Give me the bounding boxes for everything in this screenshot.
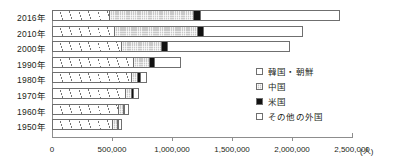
bar-segment-4 bbox=[125, 104, 129, 115]
legend-item: 韓国・朝鮮 bbox=[256, 64, 323, 78]
x-axis-tick bbox=[352, 133, 353, 138]
other-swatch bbox=[256, 113, 263, 120]
x-axis-tick-label: 0 bbox=[50, 145, 54, 154]
y-axis-tick-label: 1970年 bbox=[2, 89, 46, 101]
legend-item-label: 韓国・朝鮮 bbox=[268, 65, 314, 77]
x-axis-tick-label: 500,000 bbox=[98, 145, 127, 154]
x-axis-unit-label: (人) bbox=[360, 145, 373, 156]
x-axis-tick-label: 2,000,000 bbox=[274, 145, 310, 154]
bar-segment-2 bbox=[134, 57, 151, 68]
x-axis-tick-label: 1,500,000 bbox=[214, 145, 250, 154]
horizontal-stacked-bar-chart: 2016年2010年2000年1990年1980年1970年1960年1950年… bbox=[0, 0, 404, 167]
bar-segment-1 bbox=[52, 72, 132, 83]
bar-segment-2 bbox=[110, 10, 194, 21]
bar-segment-2 bbox=[122, 41, 163, 52]
x-axis-tick bbox=[232, 137, 233, 141]
bar-segment-4 bbox=[155, 57, 181, 68]
bar-segment-4 bbox=[141, 72, 148, 83]
bar-segment-1 bbox=[52, 57, 134, 68]
bar-segment-4 bbox=[168, 41, 291, 52]
bar-segment-4 bbox=[134, 88, 139, 99]
bar-segment-1 bbox=[52, 104, 119, 115]
legend-item-label: 中国 bbox=[268, 80, 286, 92]
bar-segment-4 bbox=[201, 10, 340, 21]
y-axis-tick-label: 1990年 bbox=[2, 58, 46, 70]
x-axis-tick bbox=[172, 137, 173, 141]
bar-segment-1 bbox=[52, 10, 110, 21]
china-swatch bbox=[256, 83, 263, 90]
legend-item: 米国 bbox=[256, 94, 323, 108]
y-axis-tick-label: 1980年 bbox=[2, 73, 46, 85]
legend-item: 中国 bbox=[256, 79, 323, 93]
y-axis-tick-label: 2000年 bbox=[2, 42, 46, 54]
x-axis-tick bbox=[112, 137, 113, 141]
legend-item-label: その他の外国 bbox=[268, 110, 323, 122]
bar-segment-1 bbox=[52, 26, 115, 37]
y-axis-tick-label: 2010年 bbox=[2, 27, 46, 39]
x-axis-line bbox=[52, 137, 352, 138]
bar-segment-4 bbox=[204, 26, 303, 37]
bar-segment-2 bbox=[115, 26, 198, 37]
legend: 韓国・朝鮮中国米国その他の外国 bbox=[256, 64, 323, 124]
y-axis-tick-label: 2016年 bbox=[2, 11, 46, 23]
usa-swatch bbox=[256, 98, 263, 105]
legend-item-label: 米国 bbox=[268, 95, 286, 107]
x-axis-tick bbox=[292, 137, 293, 141]
korea-swatch bbox=[256, 68, 263, 75]
legend-item: その他の外国 bbox=[256, 109, 323, 123]
bar-segment-1 bbox=[52, 119, 113, 130]
bar-segment-1 bbox=[52, 88, 126, 99]
bar-segment-4 bbox=[119, 119, 122, 130]
bar-segment-1 bbox=[52, 41, 122, 52]
x-axis-tick-label: 1,000,000 bbox=[154, 145, 190, 154]
y-axis-tick-label: 1950年 bbox=[2, 120, 46, 132]
y-axis-tick-label: 1960年 bbox=[2, 105, 46, 117]
